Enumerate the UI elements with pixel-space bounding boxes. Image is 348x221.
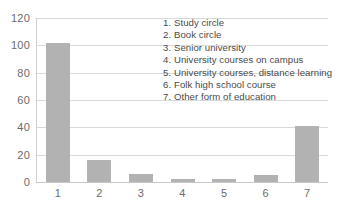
legend-item-6: 6.Folk high school course <box>163 79 345 91</box>
legend-item-number: 1. <box>163 17 174 29</box>
x-tick-label-7: 7 <box>286 187 328 200</box>
x-tick-label-1: 1 <box>37 187 79 200</box>
chart-legend: 1.Study circle2.Book circle3.Senior univ… <box>163 17 345 104</box>
y-tick-label-20: 20 <box>0 150 30 161</box>
bar-6[interactable] <box>254 175 278 182</box>
bar-slot <box>79 18 121 182</box>
legend-item-5: 5.University courses, distance learning <box>163 67 345 79</box>
y-tick-label-100: 100 <box>0 40 30 51</box>
x-tick-label-6: 6 <box>245 187 287 200</box>
x-tick-label-4: 4 <box>162 187 204 200</box>
y-tick-label-120: 120 <box>0 13 30 24</box>
legend-item-label: Senior university <box>174 42 246 53</box>
x-tick-label-3: 3 <box>120 187 162 200</box>
legend-item-number: 5. <box>163 67 174 79</box>
legend-item-1: 1.Study circle <box>163 17 345 29</box>
x-tick-label-2: 2 <box>79 187 121 200</box>
x-axis-tick-labels: 1234567 <box>37 187 328 200</box>
legend-item-label: Folk high school course <box>174 79 276 90</box>
bar-slot <box>120 18 162 182</box>
legend-item-number: 3. <box>163 42 174 54</box>
legend-item-label: Study circle <box>174 17 224 28</box>
bar-3[interactable] <box>129 174 153 182</box>
legend-item-number: 2. <box>163 29 174 41</box>
bar-chart: 120 100 80 60 40 20 0 1234567 1.Study ci… <box>0 0 348 221</box>
y-tick-label-0: 0 <box>0 177 30 188</box>
bar-1[interactable] <box>46 43 70 182</box>
bar-2[interactable] <box>87 160 111 182</box>
legend-item-label: University courses on campus <box>174 54 303 65</box>
bar-5[interactable] <box>212 179 236 182</box>
bar-7[interactable] <box>295 126 319 182</box>
legend-item-label: Book circle <box>174 29 221 40</box>
x-axis-line <box>36 182 328 183</box>
legend-item-4: 4.University courses on campus <box>163 54 345 66</box>
bar-slot <box>37 18 79 182</box>
y-tick-label-40: 40 <box>0 122 30 133</box>
x-tick-label-5: 5 <box>203 187 245 200</box>
legend-item-label: University courses, distance learning <box>174 67 332 78</box>
y-tick-label-80: 80 <box>0 68 30 79</box>
bar-4[interactable] <box>171 179 195 182</box>
legend-item-3: 3.Senior university <box>163 42 345 54</box>
legend-item-number: 4. <box>163 54 174 66</box>
legend-item-7: 7.Other form of education <box>163 91 345 103</box>
legend-item-label: Other form of education <box>174 91 276 102</box>
y-tick-label-60: 60 <box>0 95 30 106</box>
legend-item-number: 6. <box>163 79 174 91</box>
legend-item-number: 7. <box>163 91 174 103</box>
legend-item-2: 2.Book circle <box>163 29 345 41</box>
